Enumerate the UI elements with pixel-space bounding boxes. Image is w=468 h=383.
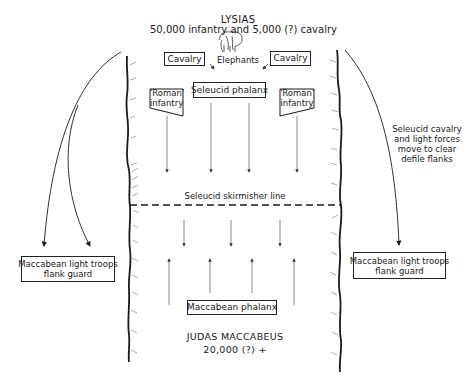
flank-guard-right-line1: Maccabean light troops (350, 256, 449, 266)
left-flank-arrows (44, 52, 121, 246)
seleucid-advance-arrows (167, 103, 297, 246)
flank-guard-right-box: Maccabean light troops flank guard (353, 252, 446, 279)
seleucid-flank-note: Seleucid cavalry and light forces move t… (390, 124, 464, 164)
roman-infantry-left-line1: 'Roman' (150, 88, 183, 98)
roman-infantry-right-line1: 'Roman' (280, 88, 314, 98)
cavalry-left-label: Cavalry (167, 54, 201, 65)
maccabean-phalanx-label: Maccabean phalanx (187, 302, 277, 313)
maccabean-phalanx-box: Maccabean phalanx (187, 300, 277, 315)
right-defile-wall (330, 50, 342, 372)
maccabean-advance-arrows (169, 259, 294, 305)
cavalry-right-box: Cavalry (270, 51, 311, 66)
roman-infantry-left-line2: infantry (150, 98, 183, 108)
seleucid-phalanx-box: Seleucid phalanx (193, 82, 266, 98)
maccabean-commander: JUDAS MACCABEUS (185, 331, 285, 342)
left-defile-wall (126, 56, 139, 362)
flank-note-line3: move to clear (390, 144, 464, 154)
flank-guard-right-line2: flank guard (375, 266, 423, 276)
flank-guard-left-box: Maccabean light troops flank guard (21, 256, 115, 282)
flank-guard-left-line1: Maccabean light troops (18, 259, 117, 269)
roman-infantry-left: 'Roman' infantry (150, 88, 183, 108)
flank-note-line1: Seleucid cavalry (390, 124, 464, 134)
seleucid-strength: 50,000 infantry and 5,000 (?) cavalry (150, 24, 320, 35)
skirmisher-line-label: Seleucid skirmisher line (180, 191, 290, 202)
flank-note-line4: defile flanks (390, 154, 464, 164)
roman-infantry-right: 'Roman' infantry (280, 88, 314, 108)
roman-infantry-right-line2: infantry (280, 98, 314, 108)
seleucid-phalanx-label: Seleucid phalanx (191, 85, 268, 96)
maccabean-strength: 20,000 (?) + (195, 344, 275, 355)
flank-guard-left-line2: flank guard (44, 269, 92, 279)
flank-note-line2: and light forces (390, 134, 464, 144)
cavalry-left-box: Cavalry (164, 52, 205, 66)
cavalry-right-label: Cavalry (273, 53, 307, 64)
elephants-label: Elephants (213, 55, 263, 66)
